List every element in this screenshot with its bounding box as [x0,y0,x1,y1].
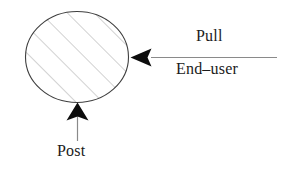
diagram-canvas: Pull End–user Post [0,0,294,172]
diagram-graphics [0,0,294,172]
pull-arrowhead-icon [131,49,152,67]
post-label: Post [57,143,85,159]
hatched-ellipse [26,12,129,103]
pull-label: Pull [196,28,223,44]
end-user-label: End–user [176,61,238,77]
